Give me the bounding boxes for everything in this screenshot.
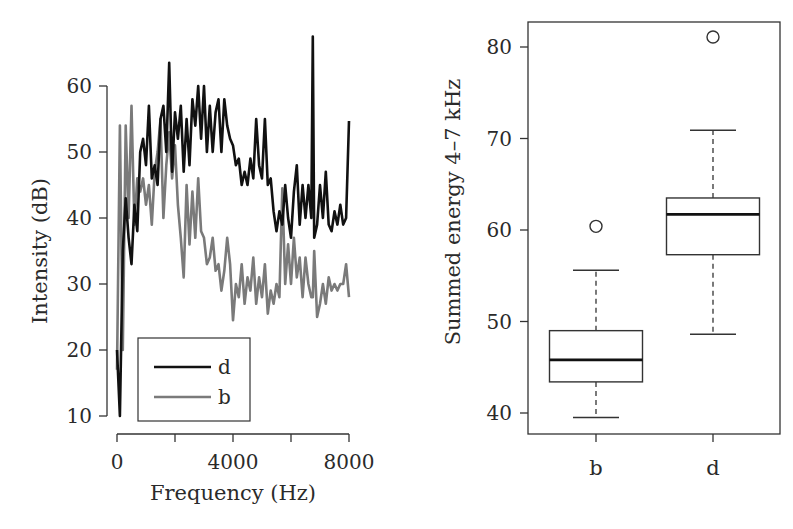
right-x-axis: bd (589, 434, 719, 480)
figure: 102030405060 040008000 Frequency (Hz) In… (0, 0, 793, 529)
legend-label-b: b (218, 385, 231, 409)
right-y-axis-label: Summed energy 4–7 kHz (441, 79, 465, 346)
category-label-d: d (706, 456, 719, 480)
boxes (550, 31, 760, 418)
y-tick-label: 40 (487, 401, 512, 425)
legend-label-d: d (218, 355, 231, 379)
outlier-point (707, 31, 719, 43)
outlier-point (590, 220, 602, 232)
x-tick-label: 0 (111, 450, 124, 474)
category-label-b: b (589, 456, 602, 480)
y-tick-label: 70 (487, 127, 512, 151)
right-y-axis: 4050607080 (487, 35, 528, 425)
legend: d b (138, 338, 250, 421)
y-tick-label: 50 (67, 140, 92, 164)
y-tick-label: 30 (67, 272, 92, 296)
box-d (667, 31, 760, 334)
iqr-box (550, 331, 643, 382)
x-tick-label: 8000 (324, 450, 375, 474)
y-tick-label: 60 (487, 218, 512, 242)
left-x-axis: 040008000 (111, 434, 375, 474)
y-tick-label: 50 (487, 310, 512, 334)
x-tick-label: 4000 (208, 450, 259, 474)
legend-box (138, 338, 250, 421)
y-tick-label: 10 (67, 404, 92, 428)
spectrum-line-chart: 102030405060 040008000 Frequency (Hz) In… (28, 37, 374, 506)
energy-box-plot: 4050607080 bd Summed energy 4–7 kHz (441, 22, 780, 480)
left-y-axis-label: Intensity (dB) (28, 178, 52, 324)
y-tick-label: 40 (67, 206, 92, 230)
box-b (550, 220, 643, 417)
y-tick-label: 60 (67, 74, 92, 98)
left-x-axis-label: Frequency (Hz) (150, 481, 316, 505)
left-y-axis: 102030405060 (67, 74, 107, 428)
y-tick-label: 20 (67, 338, 92, 362)
iqr-box (667, 198, 760, 255)
y-tick-label: 80 (487, 35, 512, 59)
